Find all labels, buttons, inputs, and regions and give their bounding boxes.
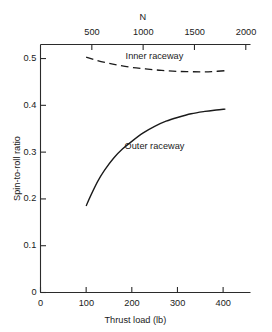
- chart-figure: N 500100015002000 0100200300400 00.10.20…: [0, 0, 272, 332]
- axis-ticks: [41, 45, 246, 293]
- series-curve: [86, 57, 225, 72]
- series-curve: [86, 109, 225, 206]
- data-curves: [86, 57, 225, 206]
- axis-spines: [41, 45, 251, 293]
- plot-canvas: [0, 0, 272, 332]
